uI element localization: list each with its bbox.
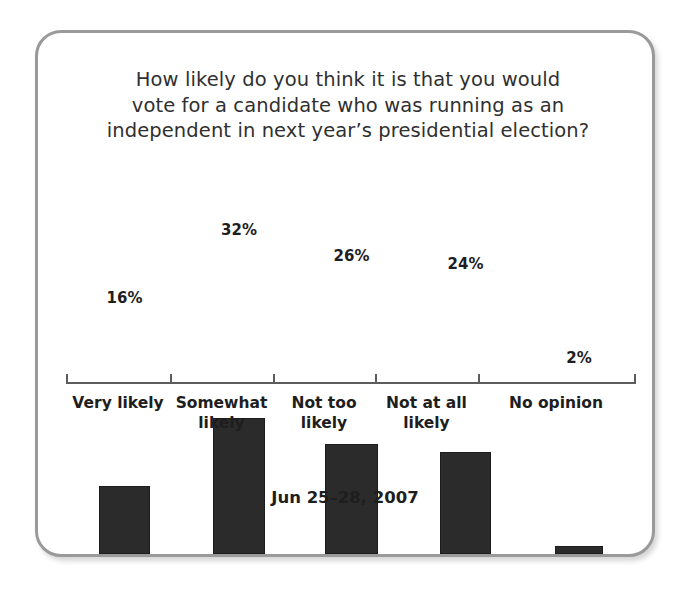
category-label-not-too-likely: Not too likely	[272, 393, 376, 433]
axis-tick-4	[478, 374, 480, 383]
category-label-very-likely-line-1: Very likely	[65, 393, 171, 413]
axis-tick-3	[375, 374, 377, 383]
category-label-somewhat-likely-line-1: Somewhat	[169, 393, 274, 413]
axis-tick-1	[170, 374, 172, 383]
x-axis-line	[66, 382, 636, 384]
category-label-somewhat-likely-line-2: likely	[169, 413, 274, 433]
axis-tick-5	[634, 374, 636, 383]
bar-somewhat-likely	[213, 418, 265, 554]
category-label-not-too-likely-line-2: likely	[272, 413, 376, 433]
bar-value-not-at-all-likely: 24%	[430, 255, 501, 273]
bar-value-no-opinion: 2%	[544, 349, 614, 367]
bar-value-very-likely: 16%	[89, 289, 160, 307]
axis-tick-2	[273, 374, 275, 383]
bar-no-opinion	[555, 546, 603, 554]
category-label-not-at-all-likely: Not at all likely	[374, 393, 479, 433]
category-label-not-at-all-likely-line-1: Not at all	[374, 393, 479, 413]
axis-tick-0	[66, 374, 68, 383]
category-label-very-likely: Very likely	[65, 393, 171, 413]
date-footnote: Jun 25–28, 2007	[38, 488, 652, 507]
chart-card: How likely do you think it is that you w…	[35, 30, 655, 557]
category-label-somewhat-likely: Somewhat likely	[169, 393, 274, 433]
category-label-no-opinion: No opinion	[477, 393, 635, 413]
category-label-not-too-likely-line-1: Not too	[272, 393, 376, 413]
category-label-not-at-all-likely-line-2: likely	[374, 413, 479, 433]
bar-value-somewhat-likely: 32%	[203, 221, 275, 239]
plot-area: 16% 32% 26% 24% 2% Very likely Somewhat …	[38, 33, 652, 554]
category-label-no-opinion-line-1: No opinion	[477, 393, 635, 413]
bar-value-not-too-likely: 26%	[315, 247, 388, 265]
